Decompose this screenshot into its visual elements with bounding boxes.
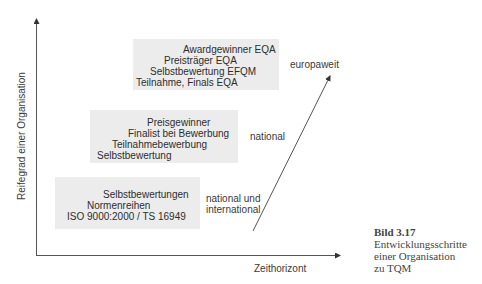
stage-line: ISO 9000:2000 / TS 16949 xyxy=(67,211,186,222)
caption-line: zu TQM xyxy=(374,262,467,274)
stage-line: Teilnahmebewerbung xyxy=(112,139,207,150)
stage-box-national-international: Selbstbewertungen Normenreihen ISO 9000:… xyxy=(55,177,200,229)
caption-line: Entwicklungsschritte xyxy=(374,238,467,250)
stage-line: Preisträger EQA xyxy=(164,55,237,66)
scope-label-europaweit: europaweit xyxy=(290,59,339,70)
stage-box-europaweit: Awardgewinner EQA Preisträger EQA Selbst… xyxy=(133,39,279,90)
caption-line: einer Organisation xyxy=(374,250,467,262)
progression-arrow xyxy=(253,76,330,231)
stage-line: Normenreihen xyxy=(87,200,150,211)
stage-line: Selbstbewertung EFQM xyxy=(150,66,256,77)
scope-label-national: national xyxy=(250,131,285,142)
scope-label-national-und: national und xyxy=(206,193,261,204)
stage-line: Preisgewinner xyxy=(147,117,210,128)
x-axis-label: Zeithorizont xyxy=(254,263,306,274)
figure-caption: Bild 3.17 Entwicklungsschritte einer Org… xyxy=(374,226,467,274)
stage-box-national: Preisgewinner Finalist bei Bewerbung Tei… xyxy=(90,110,238,163)
caption-title: Bild 3.17 xyxy=(374,226,467,238)
stage-line: Selbstbewertung xyxy=(97,150,172,161)
tqm-development-diagram: Reifegrad einer Organisation Zeithorizon… xyxy=(0,0,482,284)
scope-label-international: international xyxy=(206,204,260,215)
stage-line: Selbstbewertungen xyxy=(103,189,189,200)
y-axis-label: Reifegrad einer Organisation xyxy=(16,72,27,200)
stage-line: Finalist bei Bewerbung xyxy=(128,128,229,139)
stage-line: Teilnahme, Finals EQA xyxy=(136,77,238,88)
stage-line: Awardgewinner EQA xyxy=(183,44,276,55)
